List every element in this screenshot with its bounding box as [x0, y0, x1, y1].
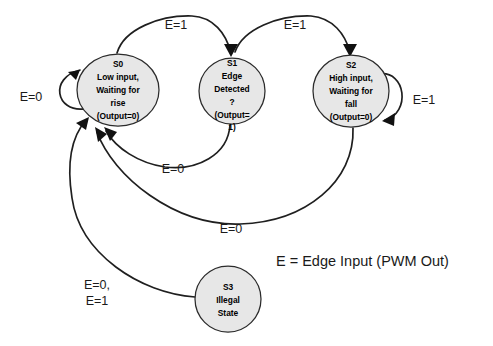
- transition-s1-to-s0-label: E=0: [162, 162, 185, 176]
- transition-s2-to-s0-label: E=0: [220, 222, 243, 236]
- transition-s0-to-s1: E=1: [117, 16, 238, 57]
- transition-s3-to-s0-label-line2: E=1: [86, 294, 109, 308]
- state-s0-line-1: Low input,: [97, 72, 139, 82]
- legend-text: E = Edge Input (PWM Out): [276, 253, 449, 269]
- transition-s2-self-loop-label: E=1: [413, 93, 436, 107]
- state-s0-line-2: Waiting for: [96, 85, 140, 95]
- state-s0-line-0: S0: [113, 59, 124, 69]
- transition-s1-to-s0: E=0: [104, 125, 230, 176]
- state-s2-line-3: fall: [345, 99, 357, 109]
- transition-s0-self-loop: E=0: [20, 70, 84, 109]
- state-s2-line-4: (Output=0): [330, 112, 373, 122]
- state-s1-line-3: ?: [229, 97, 234, 107]
- state-s3-line-0: S3: [223, 282, 234, 292]
- state-s3[interactable]: S3 Illegal State: [195, 266, 261, 332]
- transition-s3-to-s0: E=0, E=1: [70, 117, 195, 308]
- transition-s1-to-s0-path: [106, 125, 230, 168]
- transition-s3-to-s0-arrowhead: [76, 117, 89, 130]
- state-s0-line-4: (Output=0): [97, 111, 140, 121]
- state-s0-line-3: rise: [111, 98, 126, 108]
- state-s1-line-5: 1): [228, 122, 236, 132]
- transition-s3-to-s0-path: [70, 120, 195, 297]
- state-s1-line-0: S1: [227, 58, 238, 68]
- state-s0[interactable]: S0 Low input, Waiting for rise (Output=0…: [77, 54, 159, 126]
- state-s2[interactable]: S2 High input, Waiting for fall (Output=…: [313, 55, 389, 127]
- state-diagram-canvas: E=0 E=1 E=1 E=1 E=0 E=0 E=0, E=1: [0, 0, 493, 346]
- state-s2-line-2: Waiting for: [329, 86, 373, 96]
- transition-s2-self-loop-arrowhead: [382, 113, 395, 126]
- transition-s3-to-s0-label-line1: E=0,: [84, 278, 110, 292]
- state-s3-line-2: State: [218, 308, 239, 318]
- state-s2-line-1: High input,: [329, 73, 373, 83]
- state-s1-line-4: (Output=: [214, 110, 249, 120]
- transition-s1-to-s2: E=1: [235, 16, 357, 57]
- state-s1-line-2: Detected: [214, 84, 249, 94]
- state-s1-line-1: Edge: [222, 71, 243, 81]
- transition-s0-self-loop-label: E=0: [20, 90, 43, 104]
- transition-s0-to-s1-label: E=1: [165, 18, 188, 32]
- state-s3-line-1: Illegal: [216, 295, 240, 305]
- transition-s1-to-s2-label: E=1: [284, 18, 307, 32]
- state-s2-line-0: S2: [346, 60, 357, 70]
- state-s1[interactable]: S1 Edge Detected ? (Output= 1): [199, 58, 265, 132]
